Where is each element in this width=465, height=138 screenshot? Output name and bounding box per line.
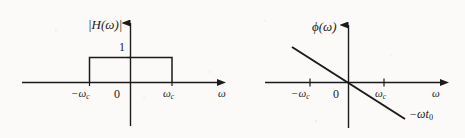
magnitude-x-tick-label-pos-wc: ωc: [163, 88, 174, 101]
figure-vector-layer: [0, 0, 465, 138]
abs-bar-close-icon: |: [119, 17, 123, 32]
omega-symbol: ω: [417, 107, 425, 121]
phase-line-annotation: −ωt0: [409, 108, 433, 122]
magnitude-y-tick-label-one: 1: [119, 41, 125, 53]
magnitude-x-axis-label: ω: [218, 88, 226, 99]
phase-origin-label: 0: [333, 88, 339, 100]
cutoff-subscript: c: [86, 92, 89, 101]
magnitude-y-axis-label: |H(ω)|: [88, 18, 122, 31]
omega-symbol: ω: [375, 87, 383, 99]
phase-x-axis-label: ω: [432, 88, 440, 99]
minus-sign: −: [409, 107, 417, 121]
magnitude-plot-group: [22, 23, 217, 126]
phase-y-axis-label: ϕ(ω): [312, 20, 337, 33]
zero-subscript: 0: [429, 113, 433, 122]
phi-symbol: ϕ: [312, 19, 319, 34]
paren-close: ): [332, 19, 336, 34]
transfer-function-symbol: H: [92, 17, 101, 32]
phase-x-tick-label-neg-wc: −ωc: [291, 88, 310, 101]
omega-symbol: ω: [163, 87, 171, 99]
omega-symbol: ω: [105, 17, 114, 32]
omega-symbol: ω: [323, 19, 332, 34]
magnitude-origin-label: 0: [114, 88, 120, 100]
cutoff-subscript: c: [306, 92, 309, 101]
cutoff-subscript: c: [383, 92, 386, 101]
figure-canvas: |H(ω)| 1 0 −ωc ωc ω ϕ(ω) 0 −ωc ωc ω −ωt0: [0, 0, 465, 138]
phase-x-tick-label-pos-wc: ωc: [375, 88, 386, 101]
cutoff-subscript: c: [171, 92, 174, 101]
magnitude-x-tick-label-neg-wc: −ωc: [71, 88, 90, 101]
